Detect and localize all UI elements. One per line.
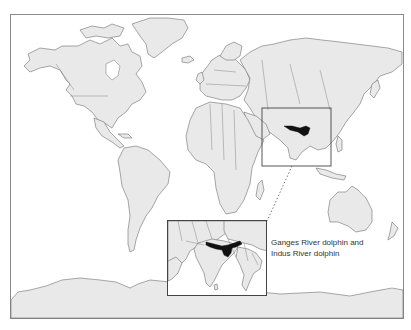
caption-line-1: Ganges River dolphin and [271, 237, 364, 248]
iceland [182, 56, 194, 63]
inset-sri-lanka [214, 284, 218, 290]
scandinavia [220, 42, 242, 60]
indonesia [316, 168, 346, 180]
arctic-islands [80, 24, 124, 38]
asia [240, 38, 402, 160]
madagascar [256, 180, 264, 200]
inset-map-svg [168, 221, 267, 296]
caribbean [118, 134, 132, 138]
caption-line-2: Indus River dolphin [271, 248, 364, 259]
inset-caption: Ganges River dolphin and Indus River dol… [271, 237, 364, 259]
greenland [132, 18, 188, 58]
leader-line [267, 166, 292, 221]
north-america [24, 38, 146, 128]
new-zealand [388, 222, 398, 240]
philippines [336, 136, 342, 152]
inset-map [167, 220, 267, 296]
south-america [118, 146, 170, 252]
australia [328, 186, 372, 232]
